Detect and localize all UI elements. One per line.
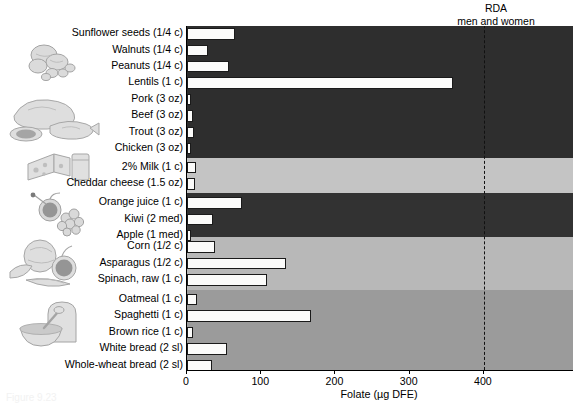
- bar-corn: [187, 241, 215, 252]
- x-axis-tick-label-400: 400: [474, 375, 492, 387]
- category-label-kiwi: Kiwi (2 med): [0, 212, 186, 225]
- dairy-band: [187, 158, 573, 193]
- category-label-sunflower-seeds: Sunflower seeds (1/4 c): [0, 26, 186, 39]
- bar-kiwi: [187, 214, 213, 225]
- x-axis-tick-label-100: 100: [251, 375, 269, 387]
- folate-content-of-foods-chart: RDA men and women: [0, 0, 584, 407]
- category-label-brown-rice: Brown rice (1 c): [0, 325, 186, 338]
- category-label-trout: Trout (3 oz): [0, 125, 186, 138]
- rda-reference-line: [484, 26, 485, 370]
- category-label-orange-juice: Orange juice (1 c): [0, 195, 186, 208]
- nuts-seeds-legumes-and-protein-band: [187, 26, 573, 158]
- category-label-white-bread: White bread (2 sl): [0, 341, 186, 354]
- category-label-spaghetti: Spaghetti (1 c): [0, 308, 186, 321]
- bar-cheddar-cheese: [187, 178, 195, 189]
- figure-caption: Figure 9.23: [6, 392, 57, 403]
- category-label-oatmeal: Oatmeal (1 c): [0, 292, 186, 305]
- category-label-walnuts: Walnuts (1/4 c): [0, 43, 186, 56]
- x-axis-tick-300: [409, 370, 410, 374]
- fruits-band: [187, 193, 573, 237]
- bar-sunflower-seeds: [187, 28, 235, 39]
- category-label-whole-wheat-bread: Whole-wheat bread (2 sl): [0, 358, 186, 371]
- bar-apple: [187, 230, 191, 241]
- bar-asparagus: [187, 258, 286, 269]
- category-label-milk: 2% Milk (1 c): [0, 160, 186, 173]
- category-label-asparagus: Asparagus (1/2 c): [0, 256, 186, 269]
- category-label-chicken: Chicken (3 oz): [0, 141, 186, 154]
- x-axis-tick-label-200: 200: [326, 375, 344, 387]
- bar-white-bread: [187, 343, 227, 354]
- grains-band: [187, 290, 573, 370]
- bar-trout: [187, 127, 194, 138]
- category-label-pork: Pork (3 oz): [0, 92, 186, 105]
- x-axis-tick-label-0: 0: [183, 375, 189, 387]
- category-label-corn: Corn (1/2 c): [0, 239, 186, 252]
- bar-chicken: [187, 143, 191, 154]
- bar-beef: [187, 110, 193, 121]
- x-axis-tick-100: [260, 370, 261, 374]
- category-label-cheddar-cheese: Cheddar cheese (1.5 oz): [0, 176, 186, 189]
- category-labels: Sunflower seeds (1/4 c) Walnuts (1/4 c) …: [0, 26, 186, 370]
- x-axis-tick-0: [186, 370, 187, 374]
- bar-lentils: [187, 77, 453, 88]
- rda-annotation: RDA men and women: [432, 2, 560, 27]
- x-axis-tick-label-300: 300: [400, 375, 418, 387]
- category-label-peanuts: Peanuts (1/4 c): [0, 59, 186, 72]
- x-axis-tick-200: [334, 370, 335, 374]
- bar-spinach: [187, 274, 267, 285]
- bar-walnuts: [187, 45, 208, 56]
- bar-orange-juice: [187, 197, 242, 208]
- bar-oatmeal: [187, 294, 197, 305]
- plot-area: [186, 26, 573, 371]
- bar-brown-rice: [187, 327, 193, 338]
- x-axis-title: Folate (µg DFE): [186, 388, 572, 400]
- rda-annotation-line-1: RDA: [432, 2, 560, 15]
- bar-milk: [187, 162, 196, 173]
- category-label-spinach: Spinach, raw (1 c): [0, 272, 186, 285]
- bar-spaghetti: [187, 310, 311, 321]
- bar-peanuts: [187, 61, 229, 72]
- category-label-lentils: Lentils (1 c): [0, 75, 186, 88]
- category-label-beef: Beef (3 oz): [0, 108, 186, 121]
- x-axis-tick-400: [483, 370, 484, 374]
- bar-pork: [187, 94, 191, 105]
